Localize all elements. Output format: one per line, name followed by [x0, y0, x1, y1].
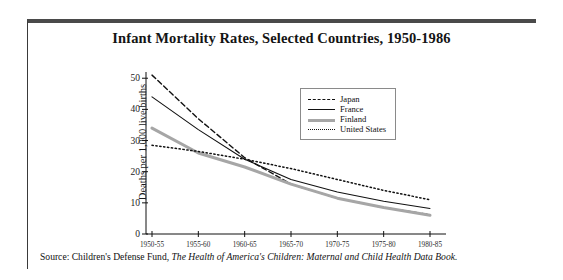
y-tick-30: 30: [131, 136, 141, 146]
y-tick-10: 10: [131, 198, 141, 208]
legend-swatch-icon: [308, 115, 335, 123]
legend-entry-finland: Finland: [308, 114, 386, 124]
legend-swatch-icon: [308, 125, 335, 133]
legend-swatch-icon: [308, 95, 335, 103]
x-tick-1970-75: 1970-75: [325, 241, 349, 249]
chart-legend: JapanFranceFinlandUnited States: [300, 88, 396, 140]
x-tick-1980-85: 1980-85: [418, 241, 442, 249]
chart-plot-area: Deaths per 1,000 live births 01020304050…: [146, 72, 446, 234]
source-prefix: Source: Children's Defense Fund,: [40, 251, 169, 262]
source-title: The Health of America's Children: Matern…: [172, 251, 458, 262]
y-tick-50: 50: [131, 73, 141, 83]
x-tick-1960-65: 1960-65: [233, 241, 257, 249]
legend-label: United States: [340, 124, 386, 134]
legend-entry-japan: Japan: [308, 94, 386, 104]
x-tick-1950-55: 1950-55: [140, 241, 164, 249]
x-tick-1965-70: 1965-70: [279, 241, 303, 249]
y-tick-40: 40: [131, 104, 141, 114]
x-tick-1975-80: 1975-80: [372, 241, 396, 249]
legend-entry-france: France: [308, 104, 386, 114]
legend-swatch-icon: [308, 105, 335, 113]
chart-lines: [146, 72, 446, 234]
y-tick-0: 0: [135, 229, 140, 239]
source-caption: Source: Children's Defense Fund, The Hea…: [40, 251, 457, 262]
page-title: Infant Mortality Rates, Selected Countri…: [27, 30, 536, 47]
y-tick-20: 20: [131, 167, 141, 177]
legend-label: Finland: [340, 114, 366, 124]
legend-label: Japan: [340, 94, 360, 104]
legend-label: France: [340, 104, 363, 114]
x-tick-1955-60: 1955-60: [186, 241, 210, 249]
legend-entry-united-states: United States: [308, 124, 386, 134]
